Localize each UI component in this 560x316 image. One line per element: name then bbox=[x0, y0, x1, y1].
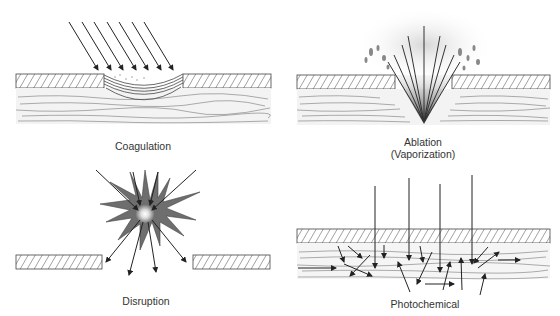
coagulation-panel bbox=[16, 22, 271, 124]
ablation-label-line1: Ablation bbox=[373, 136, 473, 148]
epidermis-layer bbox=[16, 74, 271, 88]
epidermis-layer bbox=[16, 255, 270, 269]
laser-rays bbox=[69, 22, 173, 70]
photochemical-label: Photochemical bbox=[375, 298, 475, 310]
epidermis-layer bbox=[297, 229, 550, 243]
ablation-label: Ablation (Vaporization) bbox=[373, 136, 473, 160]
dermis-layer bbox=[16, 88, 271, 124]
disruption-label: Disruption bbox=[96, 295, 196, 307]
disruption-panel bbox=[16, 170, 270, 275]
dermis-layer bbox=[297, 243, 550, 279]
plasma-core bbox=[135, 204, 155, 224]
ablation-panel bbox=[297, 7, 550, 125]
coagulation-label: Coagulation bbox=[93, 140, 193, 152]
diagram-canvas bbox=[0, 0, 560, 316]
coagulation-dots bbox=[114, 74, 144, 80]
photochemical-panel bbox=[297, 175, 550, 295]
ablation-label-line2: (Vaporization) bbox=[373, 148, 473, 160]
